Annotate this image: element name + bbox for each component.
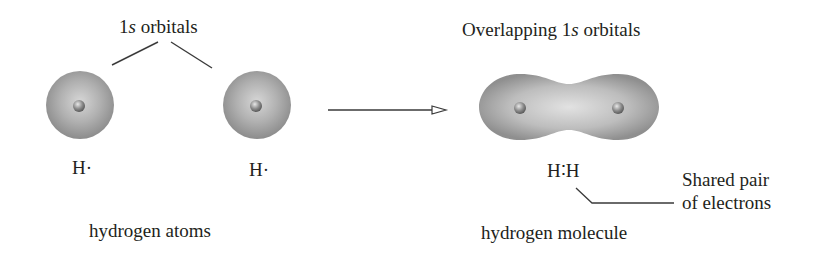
reaction-arrow-icon [328,106,446,114]
orbital-left [46,71,114,139]
caption-hydrogen-molecule: hydrogen molecule [481,222,627,244]
leader-line-right [171,42,212,68]
nucleus-right [250,100,262,112]
molecular-orbital [479,74,659,140]
label-shared-pair-line1: Shared pair [682,169,769,191]
caption-hydrogen-atoms: hydrogen atoms [89,220,211,242]
nucleus-molecule-left [514,102,526,114]
label-shared-pair-line2: of electrons [682,192,771,214]
nucleus-molecule-right [612,102,624,114]
label-molecule-formula: H∶H [547,160,579,182]
label-overlapping-orbitals: Overlapping 1s orbitals [462,19,640,41]
label-atom-left: H· [72,157,92,179]
orbital-right [223,71,291,139]
nucleus-left [73,100,85,112]
shared-pair-leader-line [576,188,674,203]
label-1s-orbitals: 1s orbitals [119,16,198,38]
leader-line-left [112,42,158,65]
label-atom-right: H· [249,159,269,181]
